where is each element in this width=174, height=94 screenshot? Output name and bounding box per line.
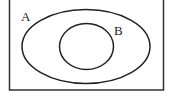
universal-set-rectangle	[10, 0, 164, 90]
venn-diagram: A B	[0, 0, 174, 94]
set-a-label: A	[21, 9, 31, 24]
set-b-ellipse	[60, 24, 114, 70]
set-b-label: B	[114, 23, 123, 38]
set-a-ellipse	[22, 10, 150, 84]
